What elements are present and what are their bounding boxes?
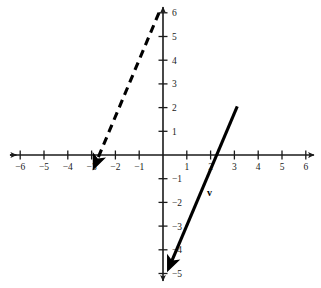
vector-label-v: v [207, 187, 212, 198]
x-tick-label: −2 [110, 162, 120, 172]
y-tick-label: 5 [172, 32, 177, 42]
coordinate-plane-svg: −6−5−4−3−2−1123456 654321−1−2−3−4−5 v [0, 0, 321, 288]
x-tick-label: 5 [280, 162, 285, 172]
y-tick-label: −1 [172, 174, 182, 184]
x-tick-label: −1 [134, 162, 144, 172]
annotation-group: v [207, 187, 212, 198]
x-axis-ticks: −6−5−4−3−2−1123456 [15, 151, 308, 173]
y-tick-label: −2 [172, 198, 182, 208]
vector-plot-figure: −6−5−4−3−2−1123456 654321−1−2−3−4−5 v [0, 0, 321, 288]
x-tick-label: −6 [15, 162, 25, 172]
vector-series-group [93, 13, 238, 273]
y-tick-label: 4 [172, 56, 177, 66]
y-tick-label: 1 [172, 127, 177, 137]
x-tick-label: −4 [63, 162, 73, 172]
y-axis-ticks: 654321−1−2−3−4−5 [159, 8, 183, 279]
x-tick-label: −5 [39, 162, 49, 172]
y-tick-label: −3 [172, 222, 182, 232]
y-tick-label: −5 [172, 269, 182, 279]
x-tick-label: 3 [232, 162, 237, 172]
vector-shaft-dashed-vector [97, 13, 159, 160]
y-tick-label: 6 [172, 8, 177, 18]
y-tick-label: 2 [172, 103, 177, 113]
y-tick-label: 3 [172, 79, 177, 89]
x-tick-label: 1 [184, 162, 189, 172]
x-tick-label: 6 [303, 162, 308, 172]
x-tick-label: 4 [256, 162, 261, 172]
